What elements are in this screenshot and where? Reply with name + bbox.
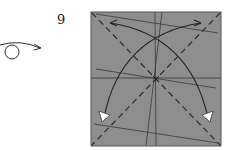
- turn-over-icon: [0, 43, 41, 59]
- origami-diagram: [0, 0, 228, 150]
